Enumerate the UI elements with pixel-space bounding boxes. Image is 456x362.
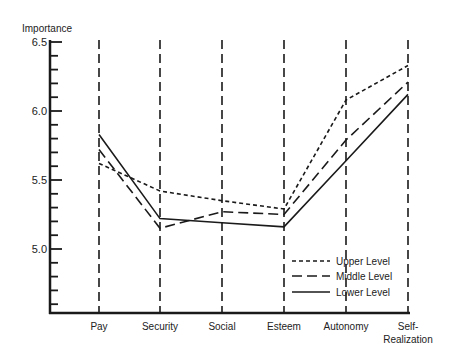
legend-label: Middle Level <box>336 271 392 282</box>
importance-line-chart: Importance6.56.05.55.0PaySecuritySocialE… <box>0 0 456 362</box>
y-tick-label: 5.0 <box>32 243 47 255</box>
x-category-label: Realization <box>383 334 432 345</box>
x-category-label: Esteem <box>267 321 301 332</box>
y-tick-label: 5.5 <box>32 174 47 186</box>
series-line-upper-level <box>99 66 408 210</box>
x-category-label: Pay <box>90 321 107 332</box>
series-line-middle-level <box>99 82 408 228</box>
y-tick-label: 6.0 <box>32 105 47 117</box>
legend-label: Lower Level <box>336 287 390 298</box>
x-category-label: Self- <box>398 321 419 332</box>
x-category-label: Social <box>208 321 235 332</box>
x-category-label: Autonomy <box>323 321 368 332</box>
legend-label: Upper Level <box>336 256 390 267</box>
y-axis-label: Importance <box>22 23 72 34</box>
series-line-lower-level <box>99 94 408 227</box>
x-category-label: Security <box>142 321 178 332</box>
y-tick-label: 6.5 <box>32 36 47 48</box>
